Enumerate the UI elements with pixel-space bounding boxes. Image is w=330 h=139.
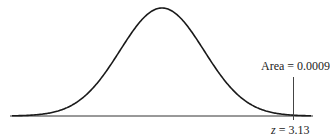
area-annotation: Area = 0.0009 <box>261 59 330 74</box>
z-variable: z <box>271 123 276 137</box>
z-value-label: z = 3.13 <box>271 123 309 138</box>
z-value: = 3.13 <box>279 123 310 137</box>
